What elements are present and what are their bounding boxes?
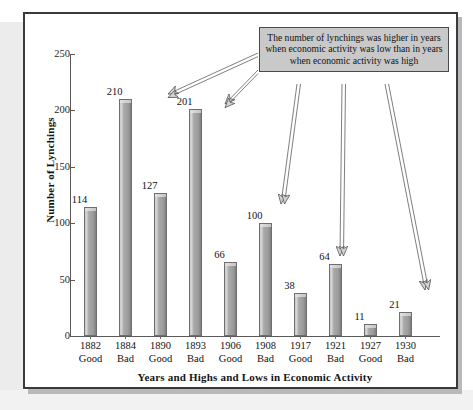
bar-value-label: 64 bbox=[308, 251, 341, 262]
bar-top-highlight bbox=[400, 313, 411, 316]
x-tick-year: 1893 bbox=[178, 340, 213, 353]
y-tick-label: 250 bbox=[36, 49, 70, 59]
x-tick-economy: Bad bbox=[108, 353, 143, 366]
bar-value-label: 66 bbox=[203, 249, 236, 260]
bar-value-label: 100 bbox=[238, 210, 271, 221]
bar-1908[interactable] bbox=[259, 223, 272, 336]
y-tick-label: 50 bbox=[36, 275, 70, 285]
x-tick-economy: Bad bbox=[178, 353, 213, 366]
x-tick-mark bbox=[335, 336, 336, 339]
x-tick-label-1908: 1908Bad bbox=[248, 340, 283, 365]
bar-1927[interactable] bbox=[364, 324, 377, 336]
bar-top-highlight bbox=[120, 100, 131, 103]
x-tick-label-1882: 1882Good bbox=[73, 340, 108, 365]
x-tick-label-1921: 1921Bad bbox=[318, 340, 353, 365]
x-tick-economy: Good bbox=[73, 353, 108, 366]
x-tick-economy: Bad bbox=[318, 353, 353, 366]
bar-slot: 114 bbox=[73, 207, 108, 336]
y-tick-mark bbox=[70, 167, 75, 168]
y-tick: 0 bbox=[25, 331, 70, 341]
x-tick-label-1890: 1890Good bbox=[143, 340, 178, 365]
page-shade-left bbox=[0, 22, 23, 410]
bar-chart: 050100150200250 Number of Lynchings 1141… bbox=[25, 14, 460, 391]
y-tick-mark bbox=[70, 336, 75, 337]
bar-1890[interactable] bbox=[154, 193, 167, 336]
bar-value-label: 21 bbox=[378, 299, 411, 310]
x-tick-label-1893: 1893Bad bbox=[178, 340, 213, 365]
x-tick-year: 1921 bbox=[318, 340, 353, 353]
x-tick-year: 1930 bbox=[388, 340, 423, 353]
x-tick-economy: Bad bbox=[248, 353, 283, 366]
callout-textbox: The number of lynchings was higher in ye… bbox=[259, 27, 449, 72]
bar-top-highlight bbox=[225, 263, 236, 266]
x-tick-economy: Good bbox=[143, 353, 178, 366]
bar-slot: 21 bbox=[388, 312, 423, 336]
x-tick-economy: Bad bbox=[388, 353, 423, 366]
bar-1930[interactable] bbox=[399, 312, 412, 336]
bar-top-highlight bbox=[330, 265, 341, 268]
bar-1921[interactable] bbox=[329, 264, 342, 336]
y-tick-label: 0 bbox=[36, 331, 70, 341]
bar-slot: 64 bbox=[318, 264, 353, 336]
x-tick-mark bbox=[405, 336, 406, 339]
x-tick-year: 1917 bbox=[283, 340, 318, 353]
bar-slot: 201 bbox=[178, 109, 213, 336]
x-tick-mark bbox=[195, 336, 196, 339]
x-tick-year: 1882 bbox=[73, 340, 108, 353]
x-tick-mark bbox=[300, 336, 301, 339]
y-axis-title: Number of Lynchings bbox=[44, 95, 56, 245]
bar-1884[interactable] bbox=[119, 99, 132, 336]
bar-value-label: 210 bbox=[98, 86, 131, 97]
x-tick-year: 1927 bbox=[353, 340, 388, 353]
x-tick-label-1917: 1917Good bbox=[283, 340, 318, 365]
x-tick-mark bbox=[265, 336, 266, 339]
bar-1917[interactable] bbox=[294, 293, 307, 336]
x-tick-year: 1908 bbox=[248, 340, 283, 353]
x-tick-mark bbox=[370, 336, 371, 339]
bar-value-label: 201 bbox=[168, 96, 201, 107]
bar-top-highlight bbox=[365, 325, 376, 328]
bar-top-highlight bbox=[260, 224, 271, 227]
bar-slot: 210 bbox=[108, 99, 143, 336]
bar-value-label: 127 bbox=[133, 180, 166, 191]
bar-slot: 11 bbox=[353, 324, 388, 336]
x-tick-label-1930: 1930Bad bbox=[388, 340, 423, 365]
x-axis-title: Years and Highs and Lows in Economic Act… bbox=[70, 371, 440, 383]
chart-frame: 050100150200250 Number of Lynchings 1141… bbox=[23, 12, 458, 389]
bar-top-highlight bbox=[155, 194, 166, 197]
bar-value-label: 114 bbox=[63, 194, 96, 205]
figure-page: 050100150200250 Number of Lynchings 1141… bbox=[0, 0, 473, 410]
x-tick-label-1927: 1927Good bbox=[353, 340, 388, 365]
x-tick-mark bbox=[160, 336, 161, 339]
bar-top-highlight bbox=[295, 294, 306, 297]
x-tick-label-1906: 1906Good bbox=[213, 340, 248, 365]
y-tick: 250 bbox=[25, 49, 70, 59]
x-tick-economy: Good bbox=[353, 353, 388, 366]
x-tick-label-1884: 1884Bad bbox=[108, 340, 143, 365]
bar-value-label: 38 bbox=[273, 280, 306, 291]
bar-1893[interactable] bbox=[189, 109, 202, 336]
bar-top-highlight bbox=[85, 208, 96, 211]
x-tick-mark bbox=[90, 336, 91, 339]
x-tick-year: 1890 bbox=[143, 340, 178, 353]
x-tick-economy: Good bbox=[213, 353, 248, 366]
bar-value-label: 11 bbox=[343, 311, 376, 322]
bar-1882[interactable] bbox=[84, 207, 97, 336]
y-tick-mark bbox=[70, 110, 75, 111]
x-tick-year: 1884 bbox=[108, 340, 143, 353]
bar-slot: 127 bbox=[143, 193, 178, 336]
x-tick-economy: Good bbox=[283, 353, 318, 366]
bar-slot: 66 bbox=[213, 262, 248, 336]
bar-top-highlight bbox=[190, 110, 201, 113]
y-tick-mark bbox=[70, 54, 75, 55]
x-tick-year: 1906 bbox=[213, 340, 248, 353]
x-tick-mark bbox=[230, 336, 231, 339]
y-tick: 50 bbox=[25, 275, 70, 285]
x-tick-mark bbox=[125, 336, 126, 339]
bar-1906[interactable] bbox=[224, 262, 237, 336]
bar-slot: 38 bbox=[283, 293, 318, 336]
